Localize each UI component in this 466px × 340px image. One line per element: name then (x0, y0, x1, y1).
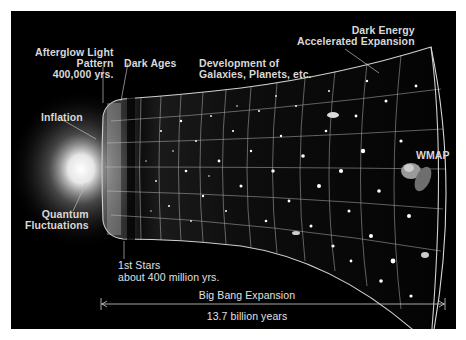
label-dark-energy: Dark Energy Accelerated Expansion (297, 25, 415, 47)
label-inflation: Inflation (41, 112, 83, 123)
afterglow-line-3: 400,000 yrs. (35, 69, 114, 80)
dark-energy-line-2: Accelerated Expansion (297, 36, 415, 47)
label-big-bang-expansion: Big Bang Expansion (187, 290, 307, 301)
development-line-2: Galaxies, Planets, etc. (199, 69, 312, 80)
label-first-stars: 1st Stars about 400 million yrs. (118, 259, 219, 283)
label-duration: 13.7 billion years (187, 311, 307, 322)
first-stars-line-1: 1st Stars (118, 259, 219, 271)
label-dark-ages: Dark Ages (124, 58, 176, 69)
label-development: Development of Galaxies, Planets, etc. (199, 58, 312, 80)
funnel-body (102, 47, 439, 329)
label-quantum-fluctuations: Quantum Fluctuations (25, 209, 89, 231)
quantum-line-2: Fluctuations (25, 220, 89, 231)
diagram-panel: Afterglow Light Pattern 400,000 yrs. Dar… (11, 11, 456, 329)
label-afterglow: Afterglow Light Pattern 400,000 yrs. (35, 47, 114, 80)
label-wmap: WMAP (416, 150, 450, 161)
first-stars-line-2: about 400 million yrs. (118, 271, 219, 283)
